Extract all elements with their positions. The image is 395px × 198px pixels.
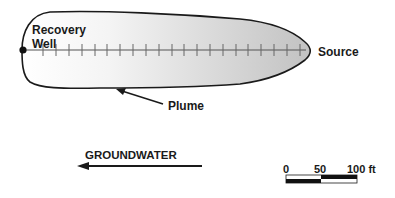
recovery-well-label-line2: Well <box>32 38 56 50</box>
plume-pointer-arrow <box>116 88 163 104</box>
scale-tick-label-50: 50 <box>314 163 326 175</box>
scale-tick-label-100: 100 ft <box>347 163 376 175</box>
scale-tick-label-0: 0 <box>283 163 289 175</box>
groundwater-flow-arrow <box>77 162 202 170</box>
source-label: Source <box>318 46 359 58</box>
scale-bar <box>286 175 357 183</box>
recovery-well-label-line1: Recovery <box>32 24 86 36</box>
transect-ticks <box>43 44 300 56</box>
groundwater-label: GROUNDWATER <box>85 149 177 161</box>
recovery-well-marker <box>19 46 26 53</box>
plume-label: Plume <box>168 100 204 112</box>
